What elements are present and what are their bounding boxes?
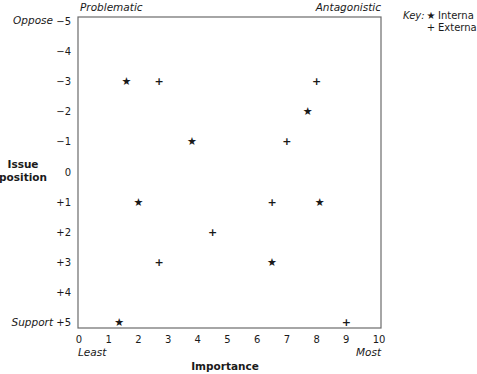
x-end-label-least: Least: [78, 346, 107, 358]
y-end-label-oppose: Oppose: [13, 14, 53, 26]
data-point-internal: ★: [267, 256, 277, 269]
corner-label-problematic: Problematic: [80, 1, 143, 13]
data-point-external: +: [208, 226, 217, 239]
y-tick-label: −5: [56, 16, 71, 27]
x-tick-label: 4: [195, 334, 201, 345]
corner-label-antagonistic: Antagonistic: [315, 1, 382, 13]
data-point-external: +: [155, 256, 164, 269]
plot-frame: [78, 17, 381, 328]
x-tick-label: 8: [313, 334, 319, 345]
x-tick-label: 7: [284, 334, 290, 345]
data-point-internal: ★: [122, 75, 132, 88]
x-tick-label: 2: [135, 334, 141, 345]
data-point-internal: ★: [303, 105, 313, 118]
scatter-chart: Problematic Antagonistic Oppose Support …: [0, 0, 477, 374]
x-tick-label: 6: [254, 334, 260, 345]
y-tick-label: 0: [65, 167, 71, 178]
x-tick-label: 10: [373, 334, 386, 345]
data-points: ★★★★★★★+++++++: [114, 75, 351, 329]
y-tick-label: −4: [56, 46, 71, 57]
legend-label-internal: Interna: [438, 10, 474, 21]
y-tick-label: −2: [56, 106, 71, 117]
y-axis-title-line2: position: [0, 171, 47, 183]
y-tick-label: −1: [56, 136, 71, 147]
legend-label-external: Externa: [438, 22, 477, 33]
y-tick-label: +4: [56, 287, 71, 298]
data-point-internal: ★: [315, 196, 325, 209]
x-tick-label: 1: [106, 334, 112, 345]
legend-title: Key:: [403, 10, 425, 21]
y-tick-label: +3: [56, 257, 71, 268]
y-tick-label: +5: [56, 317, 71, 328]
data-point-internal: ★: [187, 135, 197, 148]
legend-symbol-external: +: [427, 22, 435, 33]
data-point-internal: ★: [133, 196, 143, 209]
legend-symbol-internal: ★: [427, 10, 436, 21]
data-point-internal: ★: [114, 316, 124, 329]
data-point-external: +: [282, 135, 291, 148]
data-point-external: +: [342, 316, 351, 329]
x-tick-label: 5: [224, 334, 230, 345]
x-tick-labels: 012345678910: [76, 334, 386, 345]
y-axis-title-line1: Issue: [7, 158, 38, 170]
legend: Key: ★ Interna + Externa: [403, 10, 477, 33]
x-tick-label: 9: [343, 334, 349, 345]
y-tick-label: +1: [56, 197, 71, 208]
data-point-external: +: [155, 75, 164, 88]
y-tick-labels: −5−4−3−2−10+1+2+3+4+5: [56, 16, 71, 328]
data-point-external: +: [312, 75, 321, 88]
x-end-label-most: Most: [356, 346, 382, 358]
y-tick-label: −3: [56, 76, 71, 87]
x-tick-label: 0: [76, 334, 82, 345]
y-end-label-support: Support: [11, 316, 53, 328]
x-axis-title: Importance: [191, 360, 259, 372]
y-tick-label: +2: [56, 227, 71, 238]
x-tick-label: 3: [165, 334, 171, 345]
data-point-external: +: [267, 196, 276, 209]
